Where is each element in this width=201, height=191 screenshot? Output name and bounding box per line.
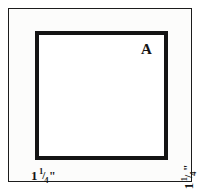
- mixed-number-right: 11/4": [181, 164, 198, 189]
- fraction-denominator-right: 4: [188, 171, 198, 175]
- dimension-label-bottom: 11/4": [31, 168, 56, 185]
- square-shape: A: [35, 31, 168, 160]
- whole-number-right: 1: [181, 182, 196, 189]
- shape-label-a: A: [141, 42, 152, 57]
- fraction-right: 1/4: [180, 171, 197, 181]
- whole-number-bottom: 1: [31, 168, 38, 183]
- fraction-bottom: 1/4: [39, 167, 49, 184]
- dimension-label-right: 11/4": [181, 164, 198, 189]
- inch-mark-bottom: ": [49, 169, 56, 183]
- figure-root: A 11/4" 11/4": [0, 0, 201, 191]
- fraction-denominator-bottom: 4: [44, 175, 48, 185]
- inch-mark-right: ": [182, 164, 196, 171]
- mixed-number-bottom: 11/4": [31, 168, 56, 185]
